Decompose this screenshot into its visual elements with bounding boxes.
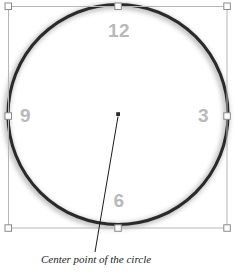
clock-label-6: 6 [0,191,238,210]
center-point-marker[interactable] [116,112,120,116]
handle-top-right[interactable] [224,3,231,10]
clock-label-12: 12 [0,21,238,40]
handle-bottom-center[interactable] [115,225,122,232]
vector-graphics-layer [0,0,238,275]
handle-top-center[interactable] [115,3,122,10]
handle-bottom-right[interactable] [224,225,231,232]
handle-middle-left[interactable] [5,113,12,120]
annotation-caption: Center point of the circle [0,253,192,266]
handle-bottom-left[interactable] [5,225,12,232]
handle-top-left[interactable] [5,3,12,10]
figure-canvas: 12 3 6 9 Center point of the circle [0,0,238,275]
handle-middle-right[interactable] [224,113,231,120]
clock-label-9: 9 [20,106,31,125]
clock-label-3: 3 [198,106,209,125]
